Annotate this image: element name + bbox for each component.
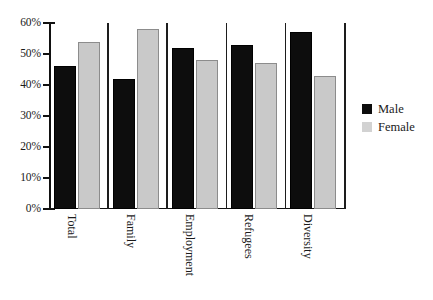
female-swatch-icon: [362, 122, 372, 132]
bar-diversity-female: [314, 76, 336, 209]
legend-label: Female: [378, 121, 415, 134]
bar-family-male: [113, 79, 135, 209]
bar-total-male: [54, 66, 76, 209]
legend-item-female[interactable]: Female: [362, 119, 432, 135]
y-axis-tick-label-wrap: 30%: [0, 110, 41, 122]
y-axis-tick-label-wrap: 40%: [0, 79, 41, 91]
legend-label: Male: [378, 103, 404, 116]
male-swatch-icon: [362, 104, 372, 114]
y-axis-tick-label-wrap: 10%: [0, 172, 41, 184]
y-axis-tick-label: 40%: [0, 79, 41, 91]
y-axis-tick-label-wrap: 0%: [0, 203, 41, 215]
y-axis-tick-label: 20%: [0, 141, 41, 153]
bar-diversity-male: [290, 32, 312, 209]
y-axis-tick-label: 0%: [0, 203, 41, 215]
y-axis-tick-label: 60%: [0, 17, 41, 29]
x-axis-label-employment: Employment: [184, 214, 196, 276]
legend-item-male[interactable]: Male: [362, 101, 432, 117]
y-axis-tick: [43, 53, 50, 55]
y-axis-tick-label: 10%: [0, 172, 41, 184]
y-axis-tick: [43, 84, 50, 86]
y-axis-tick-label: 50%: [0, 48, 41, 60]
y-axis-tick-label-wrap: 50%: [0, 48, 41, 60]
group-separator-line: [166, 23, 168, 209]
y-axis-tick: [43, 115, 50, 117]
bar-refugees-female: [255, 63, 277, 209]
x-axis-label-diversity: Diversity: [302, 214, 314, 259]
y-axis-tick-label-wrap: 20%: [0, 141, 41, 153]
plot-area: [50, 23, 346, 209]
x-axis-label-refugees: Refugees: [243, 214, 255, 259]
bar-chart-figure: 0%10%20%30%40%50%60% TotalFamilyEmployme…: [0, 0, 433, 300]
bar-employment-female: [196, 60, 218, 209]
bar-employment-male: [172, 48, 194, 209]
x-axis-label-total: Total: [66, 214, 78, 239]
bar-family-female: [137, 29, 159, 209]
x-axis-label-family: Family: [125, 214, 137, 248]
y-axis-tick: [43, 177, 50, 179]
y-axis-tick: [43, 146, 50, 148]
y-axis-tick: [43, 22, 50, 24]
bar-total-female: [78, 42, 100, 209]
y-axis-tick-label-wrap: 60%: [0, 17, 41, 29]
group-separator-line: [226, 23, 228, 209]
group-separator-line: [344, 23, 346, 209]
group-separator-line: [285, 23, 287, 209]
y-axis-tick-label: 30%: [0, 110, 41, 122]
bar-refugees-male: [231, 45, 253, 209]
group-separator-line: [107, 23, 109, 209]
chart-legend: MaleFemale: [362, 101, 432, 137]
